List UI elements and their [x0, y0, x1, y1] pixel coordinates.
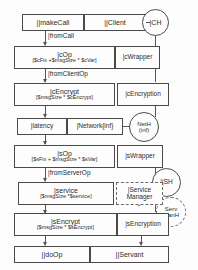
node-sencrypt[interactable]: |sEncrypt [$msgSize * $sEncrypt]	[14, 213, 117, 236]
node-client[interactable]: ||Client	[84, 14, 146, 31]
node-sencryption[interactable]: |sEncryption	[117, 213, 169, 236]
node-client-label: ||Client	[104, 19, 126, 26]
node-cencrypt-demand: [$msgSize * $cEncrypt]	[36, 95, 93, 101]
edge-fromcall-label: |fromCall	[48, 32, 74, 39]
node-network[interactable]: |Network{inf}	[67, 118, 123, 135]
node-cwrapper-label: |cWrapper	[123, 54, 153, 61]
node-doop[interactable]: ||doOp	[14, 246, 90, 263]
node-cwrapper[interactable]: |cWrapper	[115, 46, 160, 69]
node-service-demand: [$msgSize *$service]	[40, 194, 91, 200]
node-cencryption-label: |cEncryption	[125, 91, 161, 98]
node-latency-label: |latency	[31, 123, 53, 130]
node-doop-label: ||doOp	[42, 251, 63, 258]
node-service-manager[interactable]: |Service Manager	[116, 182, 163, 205]
connector-cwrapper-cencryption	[155, 69, 156, 82]
node-sop[interactable]: |sOp [$sFix + $msgSize * $sVar]	[14, 145, 115, 168]
node-makecall-label: ||makeCall	[37, 19, 70, 26]
node-cencryption[interactable]: |cEncryption	[117, 83, 169, 106]
node-cencrypt[interactable]: |cEncrypt [$msgSize * $cEncrypt]	[14, 83, 115, 106]
node-makecall[interactable]: ||makeCall	[22, 14, 84, 31]
node-sop-demand: [$sFix + $msgSize * $sVar]	[32, 157, 98, 163]
node-servant[interactable]: ||Servant	[90, 246, 169, 263]
connector-client-ch	[146, 22, 150, 23]
node-service[interactable]: |service [$msgSize *$service]	[18, 182, 114, 205]
lqn-diagram-canvas: ||makeCall ||Client |CH |fromCall |cOp […	[0, 0, 198, 270]
node-service-manager-label2: Manager	[127, 194, 153, 201]
node-servant-label: ||Servant	[116, 251, 144, 258]
node-network-label: |Network{inf}	[77, 123, 114, 130]
node-neth-processor[interactable]: NetH (inf)	[129, 112, 159, 142]
node-ch-label: |CH	[150, 19, 162, 26]
node-sencrypt-demand: [$msgSize * $sEncrypt]	[37, 225, 94, 231]
node-cop-demand: [$cFix +$msgSize * $cVar]	[32, 58, 96, 64]
edge-fromserverop-label: |fromServerOp	[48, 169, 91, 176]
node-latency[interactable]: |latency	[17, 118, 67, 135]
node-cop[interactable]: |cOp [$cFix +$msgSize * $cVar]	[14, 46, 115, 69]
node-neth-sub: (inf)	[139, 127, 149, 133]
connector-ch-spine	[155, 36, 156, 46]
node-swrapper[interactable]: |sWrapper	[117, 145, 163, 168]
connector-cencryption-neth	[155, 106, 156, 117]
node-swrapper-label: |sWrapper	[125, 153, 155, 160]
node-sencryption-label: |sEncryption	[125, 221, 161, 228]
edge-fromclientop-label: |fromClientOp	[48, 70, 88, 77]
